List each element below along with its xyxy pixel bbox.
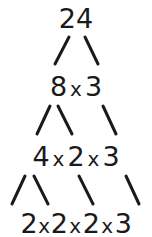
tree-level-2: 4x2x3 [0,143,152,170]
multiply-operator: x [38,214,49,237]
branch-4-to-2a [12,176,25,204]
branch-24-to-3 [85,37,98,64]
term: 2 [51,208,68,237]
branch-3-to-3-final [126,176,139,204]
term: 2 [67,141,84,172]
term: 3 [85,71,102,102]
tree-level-0: 24 [0,5,152,32]
term: 3 [102,141,119,172]
branch-8-to-4 [37,106,50,134]
branch-2-to-2 [79,176,93,204]
multiply-operator: x [88,147,100,171]
term: 3 [115,208,132,237]
branch-3-to-3 [103,106,116,134]
multiply-operator: x [69,214,80,237]
branch-24-to-8 [55,37,69,64]
tree-level-1: 8x3 [0,73,152,100]
term: 24 [59,3,93,34]
term: 2 [83,208,100,237]
multiply-operator: x [53,147,65,171]
factor-tree-branches [0,0,152,237]
term: 8 [50,71,67,102]
branch-8-to-2 [58,106,72,134]
term: 2 [21,208,38,237]
multiply-operator: x [70,77,82,101]
term: 4 [32,141,49,172]
tree-level-3: 2x2x2x3 [0,210,152,237]
multiply-operator: x [101,214,112,237]
branch-4-to-2b [34,176,48,204]
